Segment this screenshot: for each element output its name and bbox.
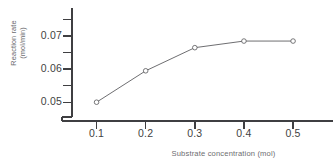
data-series-markers: [94, 39, 295, 105]
data-point-marker: [193, 45, 198, 50]
plot-area: [0, 0, 335, 168]
data-point-marker: [94, 100, 99, 105]
y-axis-ticks: [63, 20, 72, 103]
data-point-marker: [291, 39, 296, 44]
x-axis-ticks: [97, 121, 294, 129]
axis-lines: [62, 8, 333, 121]
chart-figure: Reaction rate (mol/min) 0.050.060.07 0.1…: [0, 0, 335, 168]
data-point-marker: [242, 39, 247, 44]
data-point-marker: [143, 69, 148, 74]
